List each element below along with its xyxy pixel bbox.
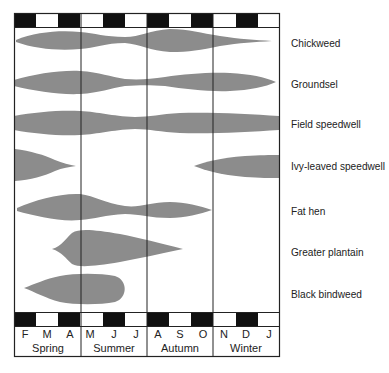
bottom-month-stripe: [14, 312, 258, 326]
shape-black-bindweed: [24, 274, 125, 305]
top-month-stripe: [14, 13, 258, 27]
label-groundsel: Groundsel: [291, 78, 338, 90]
month-label: F: [15, 328, 35, 340]
label-field-speedwell: Field speedwell: [291, 118, 361, 130]
label-greater-plantain: Greater plantain: [291, 246, 364, 258]
season-label-winter: Winter: [213, 342, 279, 354]
month-label: A: [148, 328, 168, 340]
shape-ivy-leaved-speedwell-winter: [194, 155, 279, 178]
shape-fat-hen: [17, 194, 212, 220]
month-label: M: [37, 328, 57, 340]
month-label: J: [259, 328, 279, 340]
label-chickweed: Chickweed: [291, 37, 341, 49]
shape-greater-plantain: [52, 230, 183, 266]
label-fat-hen: Fat hen: [291, 205, 325, 217]
month-label: M: [80, 328, 100, 340]
shape-ivy-leaved-speedwell: [15, 149, 76, 181]
label-black-bindweed: Black bindweed: [291, 288, 362, 300]
season-label-summer: Summer: [81, 342, 147, 354]
month-label: S: [170, 328, 190, 340]
month-label: O: [193, 328, 213, 340]
season-label-spring: Spring: [15, 342, 81, 354]
shape-groundsel: [14, 71, 276, 94]
weed-season-chart: [0, 0, 389, 373]
season-label-autumn: Autumn: [147, 342, 213, 354]
month-label: A: [60, 328, 80, 340]
month-label: J: [126, 328, 146, 340]
shape-chickweed: [16, 29, 272, 52]
chart-frame: [15, 14, 280, 357]
label-ivy-leaved-speedwell: Ivy-leaved speedwell: [291, 160, 385, 172]
month-label: J: [104, 328, 124, 340]
month-label: N: [214, 328, 234, 340]
month-label: D: [236, 328, 256, 340]
